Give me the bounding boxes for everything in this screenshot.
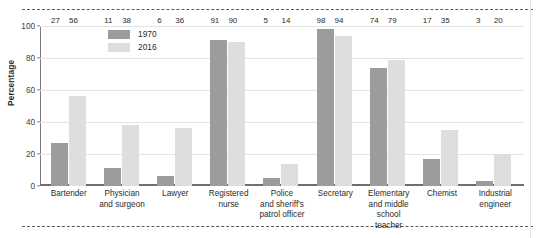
chart-page: Percentage 020406080100 2756113863691905… xyxy=(0,0,547,238)
category-label-line: Industrial xyxy=(470,189,521,200)
bar-column: 91 xyxy=(210,26,227,186)
bar-pair: 1735 xyxy=(414,26,467,186)
category-label-line: school teacher xyxy=(363,210,414,231)
legend-label-1970: 1970 xyxy=(138,29,157,39)
bar-column: 20 xyxy=(494,26,511,186)
bar-2016: 35 xyxy=(441,130,458,186)
bar-pair: 320 xyxy=(467,26,520,186)
bar-2016: 38 xyxy=(122,125,139,186)
bar-group: 320 xyxy=(467,26,520,186)
bar-group: 9190 xyxy=(201,26,254,186)
bar-value-label: 6 xyxy=(157,16,161,25)
bar-2016: 56 xyxy=(69,96,86,186)
bar-2016: 36 xyxy=(175,128,192,186)
category-label-line: Police xyxy=(256,189,307,200)
bar-group: 7479 xyxy=(361,26,414,186)
chart-legend: 1970 2016 xyxy=(108,29,157,52)
bar-value-label: 14 xyxy=(281,16,290,25)
bar-column: 27 xyxy=(51,26,68,186)
bar-value-label: 98 xyxy=(317,16,326,25)
bar-value-label: 74 xyxy=(370,16,379,25)
bar-column: 36 xyxy=(175,26,192,186)
y-tick-label: 60 xyxy=(26,86,35,95)
category-label: Lawyer xyxy=(149,189,202,231)
category-label-line: engineer xyxy=(470,200,521,211)
bar-value-label: 20 xyxy=(494,16,503,25)
bar-group: 2756 xyxy=(42,26,95,186)
bar-column: 14 xyxy=(281,26,298,186)
bar-1970: 17 xyxy=(423,159,440,186)
y-tick-mark xyxy=(37,121,40,122)
bar-2016: 79 xyxy=(388,60,405,186)
bar-column: 98 xyxy=(317,26,334,186)
bar-2016: 14 xyxy=(281,164,298,186)
category-label: Physicianand surgeon xyxy=(95,189,148,231)
category-label-line: Chemist xyxy=(416,189,467,200)
bar-column: 56 xyxy=(69,26,86,186)
y-tick-label: 100 xyxy=(21,22,35,31)
bar-2016: 20 xyxy=(494,154,511,186)
y-tick-mark xyxy=(37,25,40,26)
category-label-line: Secretary xyxy=(310,189,361,200)
category-label-line: Bartender xyxy=(43,189,94,200)
bar-column: 5 xyxy=(263,26,280,186)
bar-value-label: 94 xyxy=(335,16,344,25)
y-tick-label: 20 xyxy=(26,150,35,159)
bar-1970: 27 xyxy=(51,143,68,186)
category-label-line: Elementary xyxy=(363,189,414,200)
category-label-line: nurse xyxy=(203,200,254,211)
legend-item-1970: 1970 xyxy=(108,29,157,39)
bar-pair: 9190 xyxy=(201,26,254,186)
category-label-line: Lawyer xyxy=(150,189,201,200)
bar-value-label: 36 xyxy=(175,16,184,25)
bar-pair: 9894 xyxy=(308,26,361,186)
y-axis-title: Percentage xyxy=(6,60,16,106)
bar-1970: 98 xyxy=(317,29,334,186)
bar-2016: 94 xyxy=(335,36,352,186)
bar-group: 9894 xyxy=(308,26,361,186)
page-right-edge xyxy=(530,0,531,238)
y-tick-label: 0 xyxy=(30,182,35,191)
y-tick-mark xyxy=(37,153,40,154)
bar-value-label: 38 xyxy=(122,16,131,25)
bar-column: 74 xyxy=(370,26,387,186)
bar-value-label: 11 xyxy=(104,16,112,25)
bar-pair: 2756 xyxy=(42,26,95,186)
category-label: Chemist xyxy=(415,189,468,231)
bar-value-label: 3 xyxy=(476,16,480,25)
bar-column: 90 xyxy=(228,26,245,186)
bar-value-label: 5 xyxy=(263,16,267,25)
category-label: Policeand sheriff'spatrol officer xyxy=(255,189,308,231)
bar-value-label: 56 xyxy=(69,16,78,25)
legend-swatch-1970 xyxy=(108,30,130,39)
y-tick-mark xyxy=(37,185,40,186)
category-label: Bartender xyxy=(42,189,95,231)
category-label: Registerednurse xyxy=(202,189,255,231)
category-label: Industrialengineer xyxy=(469,189,522,231)
y-tick-mark xyxy=(37,89,40,90)
category-label-line: Registered xyxy=(203,189,254,200)
y-tick-mark xyxy=(37,57,40,58)
bar-value-label: 90 xyxy=(228,16,237,25)
bar-1970: 5 xyxy=(263,178,280,186)
bar-1970: 74 xyxy=(370,68,387,186)
bar-1970: 11 xyxy=(104,168,121,186)
bar-column: 17 xyxy=(423,26,440,186)
x-axis-category-labels: BartenderPhysicianand surgeonLawyerRegis… xyxy=(42,189,522,231)
bar-column: 79 xyxy=(388,26,405,186)
y-tick-label: 40 xyxy=(26,118,35,127)
bar-1970: 91 xyxy=(210,40,227,186)
category-label-line: Physician xyxy=(96,189,147,200)
bar-group: 514 xyxy=(254,26,307,186)
category-label: Elementaryand middleschool teacher xyxy=(362,189,415,231)
bar-1970: 3 xyxy=(476,181,493,186)
bar-value-label: 17 xyxy=(423,16,432,25)
legend-label-2016: 2016 xyxy=(138,42,157,52)
legend-swatch-2016 xyxy=(108,43,130,52)
bar-group: 1735 xyxy=(414,26,467,186)
bar-value-label: 27 xyxy=(51,16,60,25)
bar-2016: 90 xyxy=(228,42,245,186)
legend-item-2016: 2016 xyxy=(108,42,157,52)
bar-value-label: 91 xyxy=(210,16,219,25)
bar-pair: 7479 xyxy=(361,26,414,186)
